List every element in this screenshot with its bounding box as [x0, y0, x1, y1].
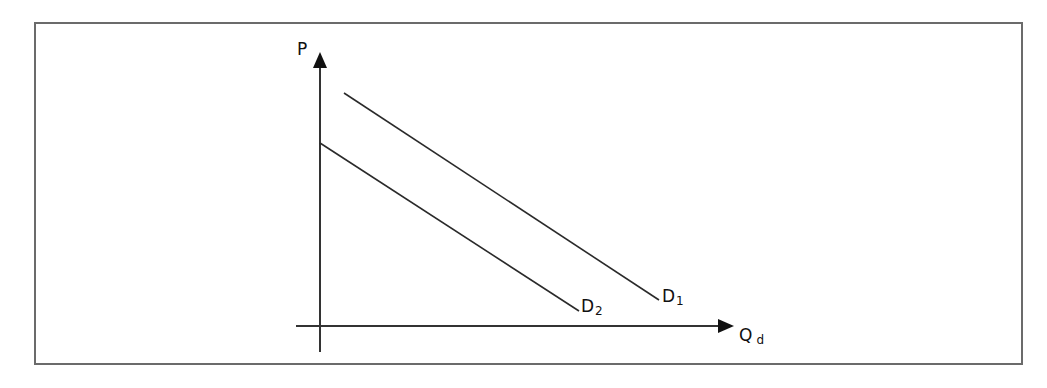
demand-curve-d2: [320, 143, 579, 311]
demand-curve-d1: [344, 93, 659, 300]
x-axis-label: Qd: [739, 327, 764, 346]
x-axis-arrow-icon: [718, 319, 734, 333]
demand-diagram: [0, 0, 1047, 388]
y-axis-label: P: [297, 41, 307, 58]
y-axis-arrow-icon: [313, 52, 327, 68]
d1-label: D1: [662, 288, 684, 307]
d2-label: D2: [581, 298, 603, 317]
